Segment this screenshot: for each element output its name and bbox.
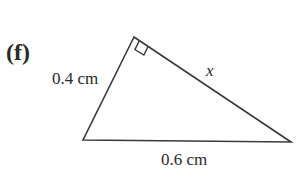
side-label-left: 0.4 cm (52, 69, 98, 88)
part-label: (f) (6, 39, 30, 65)
right-triangle (83, 37, 291, 142)
side-label-hypotenuse: x (205, 61, 214, 80)
triangle-diagram: (f) 0.4 cm x 0.6 cm (0, 0, 308, 184)
side-label-bottom: 0.6 cm (161, 150, 207, 169)
